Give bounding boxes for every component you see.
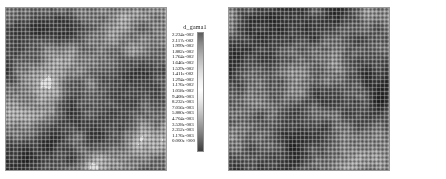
legend-body-left: 2.234e-0022.117e-0021.999e-0021.882e-002… (172, 32, 218, 152)
figure-canvas: d_gama1 2.234e-0022.117e-0021.999e-0021.… (0, 0, 446, 179)
contour-plot-d-gama1[interactable] (5, 7, 167, 171)
colorbar-left (197, 32, 204, 152)
legend-title-left: d_gama1 (172, 24, 218, 30)
mesh-grid-right (228, 7, 390, 171)
mesh-grid-left (5, 7, 167, 171)
legend-value-list-left: 2.234e-0022.117e-0021.999e-0021.882e-002… (172, 32, 195, 144)
contour-panel-left: d_gama1 2.234e-0022.117e-0021.999e-0021.… (0, 0, 223, 179)
contour-plot-d-gama2[interactable] (228, 7, 390, 171)
legend-left: d_gama1 2.234e-0022.117e-0021.999e-0021.… (172, 24, 218, 152)
legend-value: 0.000e+000 (172, 138, 195, 144)
contour-panel-right: d_gama2 2.136e-0022.024e-0021.912e-0021.… (223, 0, 446, 179)
